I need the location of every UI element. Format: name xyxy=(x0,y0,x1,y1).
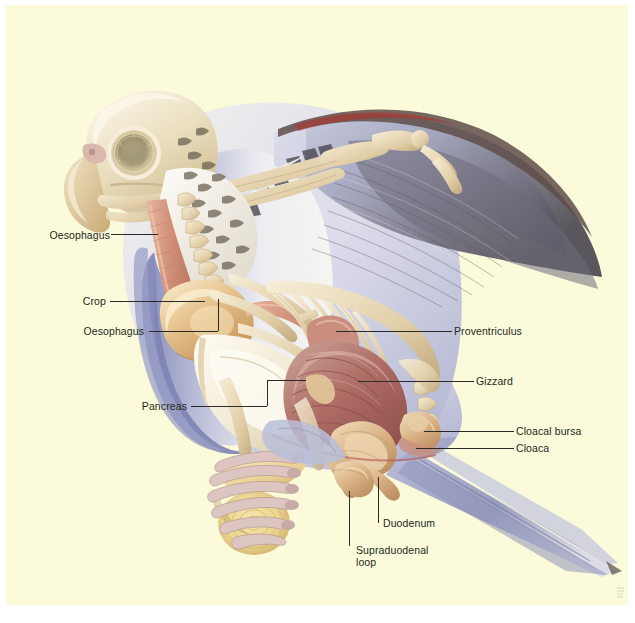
cloacal-bursa xyxy=(408,414,428,432)
label-gizzard: Gizzard xyxy=(476,376,513,388)
illustration-plate: Oesophagus Crop Oesophagus Pancreas Prov… xyxy=(6,5,628,605)
label-supraduodenal-loop: Supraduodenal loop xyxy=(356,545,429,568)
label-oesophagus-neck: Oesophagus xyxy=(35,230,110,242)
label-cloaca: Cloaca xyxy=(516,443,549,455)
label-pancreas: Pancreas xyxy=(125,401,187,413)
label-crop: Crop xyxy=(50,296,106,308)
illustration-figure: Oesophagus Crop Oesophagus Pancreas Prov… xyxy=(0,0,635,623)
label-cloacal-bursa: Cloacal bursa xyxy=(516,426,582,438)
corner-mark-icon xyxy=(616,587,625,599)
label-proventriculus: Proventriculus xyxy=(454,326,522,338)
label-oesophagus-lower: Oesophagus xyxy=(69,326,144,338)
label-duodenum: Duodenum xyxy=(383,518,435,530)
